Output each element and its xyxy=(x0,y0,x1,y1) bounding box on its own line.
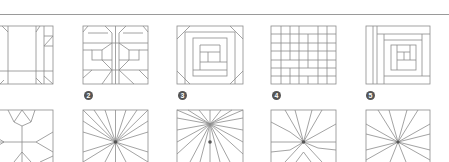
block-5-logcabin-offset xyxy=(366,26,430,84)
block-4-brick-grid xyxy=(271,26,336,84)
block-9-radial-forked xyxy=(271,110,336,162)
badge-4: 4 xyxy=(272,91,281,100)
badge-3: 3 xyxy=(178,91,187,100)
block-10-radial-sparse xyxy=(366,110,430,162)
badge-5: 5 xyxy=(366,91,375,100)
block-1-shoofly xyxy=(0,26,53,84)
block-2-bowtie xyxy=(83,26,148,84)
block-8-sunburst-dense xyxy=(177,110,243,162)
block-7-sunburst xyxy=(83,110,148,162)
badge-2: 2 xyxy=(84,91,93,100)
block-6-star-flower xyxy=(0,110,53,162)
block-3-logcabin-octagon xyxy=(177,26,243,84)
quilt-figure xyxy=(0,0,449,162)
